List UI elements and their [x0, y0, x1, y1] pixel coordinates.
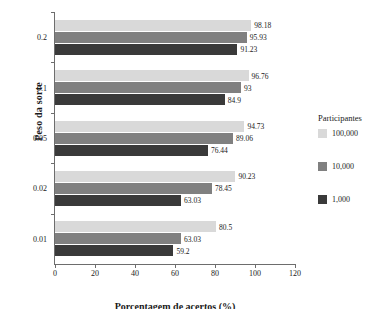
bar-chart: Peso da sorte 98.1895.9391.230.296.76938… [0, 0, 390, 309]
bar-value-label: 59.2 [173, 246, 189, 255]
y-tick-label: 0.2 [1, 33, 47, 42]
y-tick-mark [51, 113, 55, 114]
bar-value-label: 80.5 [216, 222, 232, 231]
y-axis-title: Peso da sorte [33, 52, 44, 172]
bar[interactable] [55, 183, 212, 194]
x-tick-label: 120 [280, 269, 310, 278]
bar-row: 90.23 [55, 171, 295, 182]
x-tick-mark [215, 264, 216, 268]
bar[interactable] [55, 121, 244, 132]
y-tick-label: 0.1 [1, 83, 47, 92]
bar-value-label: 95.93 [247, 33, 267, 42]
bar-row: 91.23 [55, 44, 295, 55]
bar-row: 80.5 [55, 221, 295, 232]
bar[interactable] [55, 20, 251, 31]
legend-item[interactable]: 1,000 [318, 194, 362, 204]
plot-area: 98.1895.9391.230.296.769384.90.194.7389.… [55, 12, 295, 264]
bar[interactable] [55, 245, 173, 256]
bar[interactable] [55, 94, 225, 105]
y-tick-mark [51, 62, 55, 63]
bar[interactable] [55, 70, 249, 81]
x-tick-mark [255, 264, 256, 268]
y-tick-label: 0.02 [1, 184, 47, 193]
bar-row: 76.44 [55, 145, 295, 156]
bar-value-label: 63.03 [181, 234, 201, 243]
bar-row: 96.76 [55, 70, 295, 81]
bar[interactable] [55, 195, 181, 206]
bar-row: 59.2 [55, 245, 295, 256]
legend-swatch-icon [318, 162, 327, 171]
bar-value-label: 96.76 [249, 71, 269, 80]
x-tick-mark [55, 264, 56, 268]
x-tick-label: 0 [40, 269, 70, 278]
bar-group: 94.7389.0676.44 [55, 121, 295, 157]
bar-row: 98.18 [55, 20, 295, 31]
bar-value-label: 94.73 [244, 122, 264, 131]
bar-group: 80.563.0359.2 [55, 221, 295, 257]
bar-group: 98.1895.9391.23 [55, 20, 295, 56]
bar-value-label: 93 [241, 83, 252, 92]
bar-row: 63.03 [55, 195, 295, 206]
bar[interactable] [55, 44, 237, 55]
x-tick-label: 20 [80, 269, 110, 278]
x-axis-title: Porcentagem de acertos (%) [55, 301, 295, 309]
legend-item[interactable]: 100,000 [318, 128, 362, 138]
bar-value-label: 90.23 [235, 172, 255, 181]
y-tick-label: 0.05 [1, 134, 47, 143]
legend-label: 100,000 [332, 129, 358, 138]
bar-value-label: 78.45 [212, 184, 232, 193]
x-tick-mark [95, 264, 96, 268]
bar-row: 89.06 [55, 133, 295, 144]
x-tick-mark [135, 264, 136, 268]
x-tick-label: 100 [240, 269, 270, 278]
y-tick-mark [51, 214, 55, 215]
bar-value-label: 91.23 [237, 45, 257, 54]
bar[interactable] [55, 233, 181, 244]
bar-row: 78.45 [55, 183, 295, 194]
bar-row: 94.73 [55, 121, 295, 132]
bar-value-label: 63.03 [181, 196, 201, 205]
bar-row: 84.9 [55, 94, 295, 105]
bar-value-label: 84.9 [225, 95, 241, 104]
x-tick-label: 40 [120, 269, 150, 278]
bar-row: 95.93 [55, 32, 295, 43]
x-tick-label: 60 [160, 269, 190, 278]
bar-value-label: 76.44 [208, 146, 228, 155]
bar-value-label: 98.18 [251, 21, 271, 30]
bar-group: 96.769384.9 [55, 70, 295, 106]
bar[interactable] [55, 221, 216, 232]
legend-swatch-icon [318, 195, 327, 204]
bar[interactable] [55, 145, 208, 156]
y-tick-label: 0.01 [1, 234, 47, 243]
y-tick-mark [51, 12, 55, 13]
legend-items: 100,00010,0001,000 [318, 128, 362, 204]
bar[interactable] [55, 133, 233, 144]
legend-title: Participantes [318, 113, 362, 123]
x-tick-mark [175, 264, 176, 268]
bar[interactable] [55, 171, 235, 182]
legend-label: 10,000 [332, 162, 354, 171]
bar-row: 93 [55, 82, 295, 93]
x-tick-mark [295, 264, 296, 268]
legend-item[interactable]: 10,000 [318, 161, 362, 171]
bar-row: 63.03 [55, 233, 295, 244]
bar[interactable] [55, 32, 247, 43]
bar-value-label: 89.06 [233, 134, 253, 143]
y-tick-mark [51, 163, 55, 164]
x-tick-label: 80 [200, 269, 230, 278]
legend-swatch-icon [318, 129, 327, 138]
legend-label: 1,000 [332, 195, 350, 204]
bar-group: 90.2378.4563.03 [55, 171, 295, 207]
bar[interactable] [55, 82, 241, 93]
legend: Participantes 100,00010,0001,000 [318, 113, 362, 227]
